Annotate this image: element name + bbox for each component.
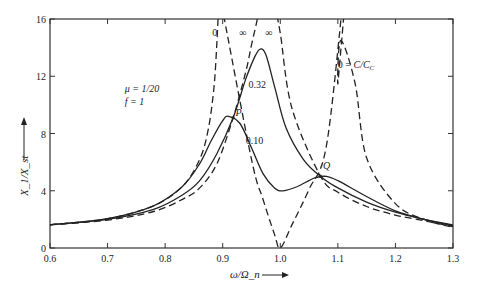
- y-axis-label: X_1/X_st: [18, 155, 30, 197]
- x-tick-label: 1.2: [389, 253, 402, 264]
- annotation-label: 0.32: [249, 79, 267, 90]
- annotation-layer: μ = 1/20f = 10∞∞0.32P0.10Q0 = C/CC: [124, 27, 375, 178]
- point-q-marker: [319, 175, 322, 178]
- x-tick-label: 1.3: [447, 253, 460, 264]
- y-axis-arrowhead-icon: [21, 117, 27, 125]
- x-tick-label: 1.1: [332, 253, 345, 264]
- x-axis-arrowhead-icon: [282, 272, 289, 278]
- annotation-label: 0.10: [246, 135, 264, 146]
- x-tick-label: 0.7: [101, 253, 114, 264]
- y-tick-label: 0: [41, 243, 46, 254]
- y-axis-label-text: X_1/X_st: [18, 155, 30, 197]
- annotation-label: Q: [323, 160, 331, 171]
- point-p-marker: [231, 116, 234, 119]
- x-tick-label: 0.8: [159, 253, 172, 264]
- series-damping-0-10: [50, 116, 453, 226]
- annotation-label: f = 1: [125, 96, 145, 107]
- annotation-label: 0: [212, 27, 217, 38]
- series-layer: [50, 5, 453, 249]
- x-axis-label: ω/Ω_n: [230, 268, 289, 280]
- x-tick-label: 1.0: [274, 253, 287, 264]
- x-tick-label: 0.6: [44, 253, 57, 264]
- y-axis-ticks: 0481216: [36, 14, 453, 254]
- annotation-label: ∞: [265, 27, 272, 38]
- annotation-label: 0 = C/CC: [338, 59, 375, 72]
- annotation-label: μ = 1/20: [124, 83, 160, 94]
- chart-canvas: 0.60.70.80.91.01.11.21.3 0481216 μ = 1/2…: [0, 0, 478, 290]
- x-axis-label-text: ω/Ω_n: [230, 268, 260, 280]
- annotation-label: P: [234, 107, 241, 118]
- y-tick-label: 8: [41, 129, 46, 140]
- series-damping-infinite: [50, 5, 453, 227]
- plot-frame: [50, 19, 453, 248]
- y-tick-label: 4: [41, 186, 46, 197]
- y-tick-label: 16: [36, 14, 46, 25]
- y-tick-label: 12: [36, 71, 46, 82]
- annotation-label: ∞: [239, 27, 246, 38]
- plot-border: [50, 19, 453, 248]
- x-tick-label: 0.9: [216, 253, 229, 264]
